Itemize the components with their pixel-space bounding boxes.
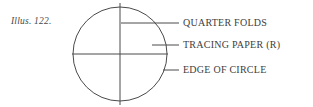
callout-label-edge-of-circle: EDGE OF CIRCLE [183,64,267,75]
callout-label-tracing-paper: TRACING PAPER (R) [183,39,280,50]
callout-label-quarter-folds: QUARTER FOLDS [183,17,267,28]
illustration-figure: Illus. 122. QUARTER FOLDS TRACING PAPER … [0,0,313,107]
